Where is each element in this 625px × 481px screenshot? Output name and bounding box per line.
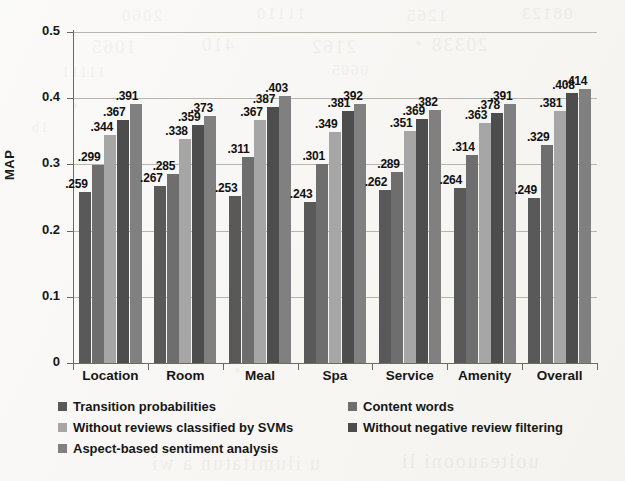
bar[interactable] [192,125,204,363]
y-tick-label: 0 [0,354,60,369]
x-category-label: Amenity [447,368,522,383]
bar[interactable] [479,123,491,363]
bar-value-label: .338 [165,124,188,138]
bar[interactable] [329,132,341,363]
y-tick-label: 0.4 [0,89,60,104]
legend-swatch-icon [348,423,357,432]
legend-column-left: Transition probabilitiesWithout reviews … [58,396,358,459]
bar-value-label: .299 [78,150,101,164]
bar[interactable] [279,96,291,363]
bar-value-label: .391 [490,89,513,103]
legend-item[interactable]: Transition probabilities [58,396,358,417]
y-tick-mark [67,297,74,298]
x-group-separator [597,363,598,370]
x-group-separator [148,363,149,370]
legend-item[interactable]: Without reviews classified by SVMs [58,417,358,438]
bar[interactable] [466,155,478,363]
bar-value-label: .391 [116,89,139,103]
gridline [73,32,597,33]
bar[interactable] [342,111,354,363]
bar[interactable] [104,135,116,363]
bar[interactable] [541,145,553,363]
bar-value-label: .367 [240,105,263,119]
bar-value-label: .314 [452,140,475,154]
bar[interactable] [92,165,104,363]
bar[interactable] [316,164,328,363]
bar-value-label: .329 [527,130,550,144]
x-group-separator [223,363,224,370]
bar-value-label: .414 [565,74,588,88]
bar[interactable] [167,174,179,363]
legend-swatch-icon [58,444,67,453]
bar[interactable] [304,202,316,363]
bar[interactable] [416,119,428,363]
y-tick-label: 0.5 [0,23,60,38]
bar[interactable] [179,139,191,363]
x-category-label: Overall [522,368,597,383]
bar-value-label: .249 [514,183,537,197]
bar-value-label: .267 [140,171,163,185]
bar-value-label: .311 [228,142,250,156]
legend-swatch-icon [58,423,67,432]
y-tick-mark [67,32,74,33]
bar[interactable] [204,116,216,363]
bar-value-label: .243 [290,187,313,201]
bar[interactable] [154,186,166,363]
bar-value-label: .403 [265,81,288,95]
bar-value-label: .381 [540,96,563,110]
legend-item-label: Content words [363,399,454,414]
legend-item-label: Transition probabilities [73,399,216,414]
bar-value-label: .285 [153,159,176,173]
x-category-label: Location [73,368,148,383]
bar[interactable] [379,190,391,363]
bar[interactable] [267,107,279,363]
bar[interactable] [504,104,516,363]
x-group-separator [298,363,299,370]
bar[interactable] [391,172,403,363]
x-group-separator [73,363,74,370]
bar[interactable] [528,198,540,363]
bar[interactable] [254,120,266,363]
legend-item[interactable]: Aspect-based sentiment analysis [58,438,358,459]
x-category-label: Room [148,368,223,383]
bar[interactable] [454,188,466,363]
bar[interactable] [229,196,241,363]
bar[interactable] [566,93,578,363]
bar-value-label: .253 [215,181,238,195]
legend-column-right: Content wordsWithout negative review fil… [348,396,625,438]
bar[interactable] [491,113,503,363]
x-group-separator [372,363,373,370]
y-tick-mark [67,98,74,99]
bar[interactable] [117,120,129,363]
bar[interactable] [404,131,416,363]
x-category-label: Meal [223,368,298,383]
bar-value-label: .289 [377,157,400,171]
bar[interactable] [79,192,91,363]
y-tick-mark [67,231,74,232]
x-axis-line [73,363,598,364]
x-group-separator [447,363,448,370]
bar-value-label: .349 [315,117,338,131]
legend-item-label: Aspect-based sentiment analysis [73,441,278,456]
bar-value-label: .351 [390,116,413,130]
legend-swatch-icon [58,402,67,411]
bar-value-label: .259 [65,177,88,191]
bar-value-label: .367 [103,105,126,119]
bar[interactable] [130,104,142,363]
bar-value-label: .392 [340,89,363,103]
bar-value-label: .344 [90,120,113,134]
x-category-label: Service [372,368,447,383]
bar[interactable] [429,110,441,363]
bar-value-label: .373 [190,101,213,115]
legend-item[interactable]: Without negative review filtering [348,417,625,438]
bar[interactable] [554,111,566,363]
y-axis-title: MAP [2,150,17,180]
bar[interactable] [242,157,254,363]
bar-value-label: .262 [365,175,388,189]
legend-item[interactable]: Content words [348,396,625,417]
legend-item-label: Without negative review filtering [363,420,563,435]
bar[interactable] [354,104,366,364]
y-tick-mark [67,164,74,165]
bar[interactable] [579,89,591,363]
bar-value-label: .264 [440,173,463,187]
